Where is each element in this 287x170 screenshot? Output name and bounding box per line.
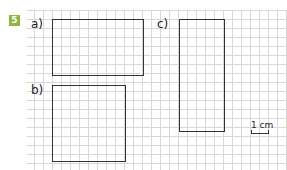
part-b-label: b) (31, 83, 43, 97)
part-c-label: c) (157, 17, 168, 31)
scale-label: 1 cm (251, 120, 273, 130)
scale-bar (251, 130, 269, 134)
part-a-label: a) (31, 17, 43, 31)
rectangle-c (179, 19, 225, 132)
rectangle-a (52, 19, 144, 76)
rectangle-b (52, 85, 126, 162)
exercise-number-badge: 5 (9, 15, 20, 26)
